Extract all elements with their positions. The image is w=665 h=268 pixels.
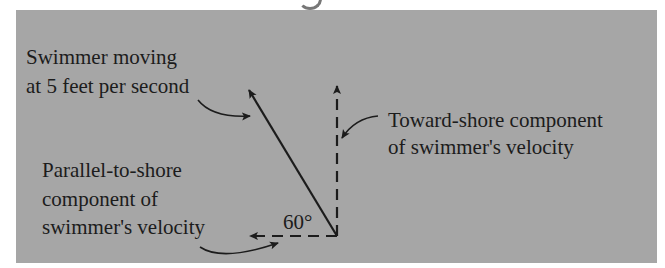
angle-label: 60° bbox=[283, 209, 312, 235]
swimmer-label-line2: at 5 feet per second bbox=[26, 73, 189, 99]
toward-shore-label-line1: Toward-shore component bbox=[388, 107, 603, 133]
parallel-label-line3: swimmer's velocity bbox=[42, 214, 205, 240]
toward-shore-label-line2: of swimmer's velocity bbox=[388, 134, 574, 160]
parallel-label-line2: component of bbox=[42, 186, 158, 212]
parallel-label-line1: Parallel-to-shore bbox=[42, 157, 182, 183]
swimmer-pointer-arrow bbox=[198, 100, 250, 116]
toward-shore-pointer-arrow bbox=[342, 116, 378, 138]
swimmer-label-line1: Swimmer moving bbox=[26, 44, 177, 70]
parallel-pointer-arrow bbox=[200, 243, 278, 254]
